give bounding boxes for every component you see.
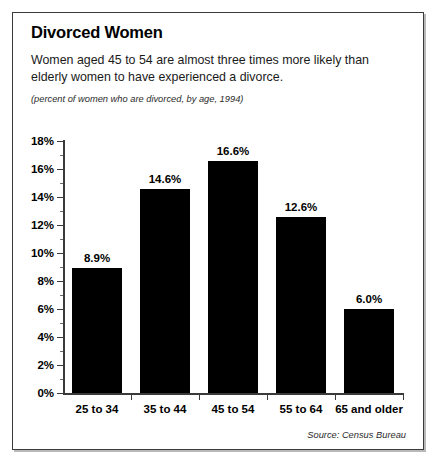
chart-header: Divorced Women Women aged 45 to 54 are a… bbox=[31, 23, 403, 105]
y-axis-tick-label: 2% bbox=[10, 359, 54, 371]
y-tick-mark bbox=[57, 253, 63, 254]
y-axis-tick-label: 8% bbox=[10, 275, 54, 287]
y-axis-tick-label: 18% bbox=[10, 135, 54, 147]
bar-value-label: 12.6% bbox=[285, 201, 318, 213]
y-tick-mark bbox=[57, 393, 63, 394]
y-tick-mark-minor bbox=[60, 267, 64, 268]
y-tick-mark bbox=[57, 225, 63, 226]
y-axis-tick-label: 16% bbox=[10, 163, 54, 175]
x-axis-category-label: 25 to 34 bbox=[76, 403, 119, 415]
y-tick-mark-minor bbox=[60, 155, 64, 156]
bar: 8.9% bbox=[72, 268, 122, 393]
x-tick-mark bbox=[199, 393, 200, 400]
y-axis-tick-label: 12% bbox=[10, 219, 54, 231]
source-note: Source: Census Bureau bbox=[307, 430, 406, 440]
y-tick-mark-minor bbox=[60, 239, 64, 240]
bar: 16.6% bbox=[208, 161, 258, 393]
y-tick-mark-minor bbox=[60, 211, 64, 212]
x-axis-category-label: 45 to 54 bbox=[212, 403, 255, 415]
y-tick-mark bbox=[57, 309, 63, 310]
bar: 6.0% bbox=[344, 309, 394, 393]
x-tick-mark bbox=[403, 393, 404, 400]
bar-value-label: 8.9% bbox=[84, 252, 110, 264]
chart-figure-panel: Divorced Women Women aged 45 to 54 are a… bbox=[12, 12, 424, 450]
y-tick-mark-minor bbox=[60, 379, 64, 380]
x-axis-category-label: 55 to 64 bbox=[280, 403, 323, 415]
bar-value-label: 16.6% bbox=[217, 145, 250, 157]
y-tick-mark bbox=[57, 197, 63, 198]
y-axis-tick-label: 0% bbox=[10, 387, 54, 399]
y-tick-mark bbox=[57, 281, 63, 282]
bar-value-label: 14.6% bbox=[149, 173, 182, 185]
y-tick-mark bbox=[57, 141, 63, 142]
x-axis-category-label: 35 to 44 bbox=[144, 403, 187, 415]
y-axis-tick-label: 14% bbox=[10, 191, 54, 203]
x-axis-category-label: 65 and older bbox=[335, 403, 403, 415]
y-tick-mark-minor bbox=[60, 183, 64, 184]
plot-area: 0%2%4%6%8%10%12%14%16%18% 8.9%14.6%16.6%… bbox=[63, 141, 403, 393]
y-tick-mark bbox=[57, 365, 63, 366]
y-tick-mark-minor bbox=[60, 295, 64, 296]
x-tick-mark bbox=[335, 393, 336, 400]
y-tick-mark-minor bbox=[60, 351, 64, 352]
bar: 12.6% bbox=[276, 217, 326, 393]
y-axis-tick-label: 10% bbox=[10, 247, 54, 259]
y-axis-tick-label: 4% bbox=[10, 331, 54, 343]
chart-subtitle: Women aged 45 to 54 are almost three tim… bbox=[31, 52, 391, 85]
chart-units-note: (percent of women who are divorced, by a… bbox=[31, 94, 403, 105]
y-tick-mark bbox=[57, 169, 63, 170]
bar: 14.6% bbox=[140, 189, 190, 393]
y-axis-line bbox=[63, 140, 65, 394]
y-tick-mark bbox=[57, 337, 63, 338]
y-axis-tick-label: 6% bbox=[10, 303, 54, 315]
x-tick-mark bbox=[267, 393, 268, 400]
x-tick-mark bbox=[131, 393, 132, 400]
x-axis-line bbox=[63, 393, 403, 395]
bar-value-label: 6.0% bbox=[356, 293, 382, 305]
page-title: Divorced Women bbox=[31, 23, 403, 41]
y-tick-mark-minor bbox=[60, 323, 64, 324]
